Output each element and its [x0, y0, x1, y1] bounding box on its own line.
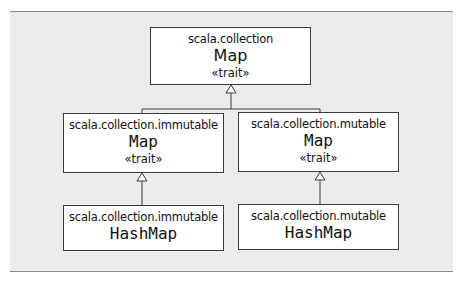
node-mutable-map: scala.collection.mutable Map «trait» — [238, 112, 399, 172]
node-stereotype: «trait» — [64, 152, 223, 166]
node-stereotype: «trait» — [151, 66, 310, 80]
node-stereotype: «trait» — [239, 151, 398, 165]
node-name: HashMap — [239, 223, 398, 243]
node-package: scala.collection — [151, 32, 310, 46]
node-package: scala.collection.immutable — [64, 210, 223, 224]
node-name: HashMap — [64, 224, 223, 244]
node-scala-collection-map: scala.collection Map «trait» — [150, 27, 311, 85]
node-immutable-hashmap: scala.collection.immutable HashMap — [63, 205, 224, 251]
node-name: Map — [64, 132, 223, 152]
inheritance-arrow-icon — [315, 172, 325, 180]
inheritance-arrow-icon — [137, 173, 147, 181]
node-immutable-map: scala.collection.immutable Map «trait» — [63, 113, 224, 173]
node-package: scala.collection.immutable — [64, 118, 223, 132]
node-name: Map — [151, 46, 310, 66]
node-package: scala.collection.mutable — [239, 117, 398, 131]
node-name: Map — [239, 131, 398, 151]
node-mutable-hashmap: scala.collection.mutable HashMap — [238, 204, 399, 250]
node-package: scala.collection.mutable — [239, 209, 398, 223]
inheritance-arrow-icon — [226, 85, 236, 93]
